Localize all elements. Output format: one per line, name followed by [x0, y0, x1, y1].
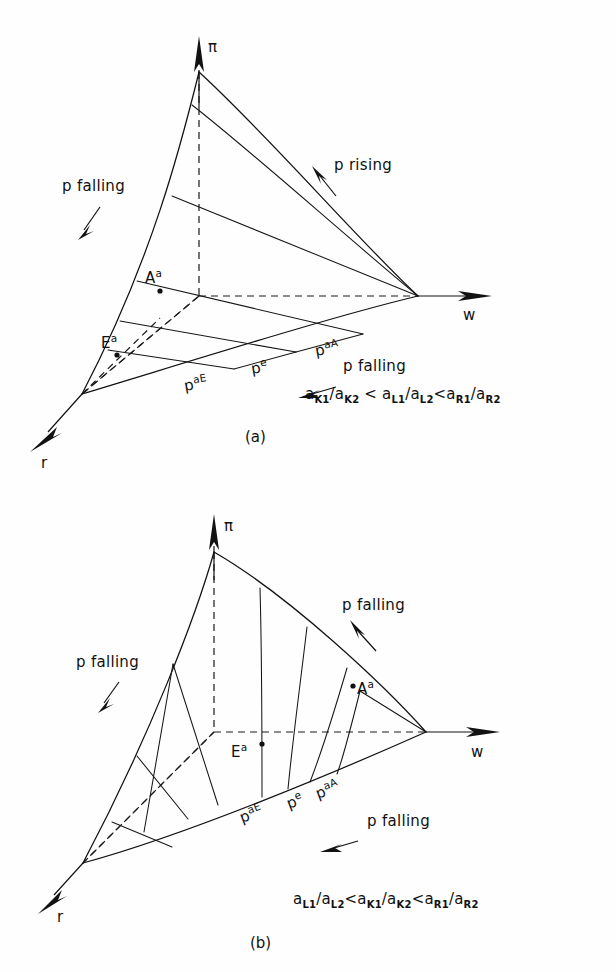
pi-axis-label-b: π — [224, 517, 233, 535]
pi-axis-label-a: π — [208, 38, 217, 56]
ruling-2-a — [137, 281, 363, 334]
label-A-a: Aa — [145, 267, 162, 287]
point-E-a — [114, 352, 119, 357]
caption-b: (b) — [250, 934, 271, 952]
label-E-a: Ea — [101, 332, 118, 352]
w-axis-b — [426, 727, 500, 737]
front-boundary-edge-a — [82, 296, 418, 394]
ruling-1-a — [172, 196, 418, 296]
annotation-p-falling-lower-a: p falling — [343, 357, 406, 375]
label-paA-a: paA — [313, 336, 341, 360]
svg-text:aL1/aL2<aK1/aK2<aR1/aR2: aL1/aL2<aK1/aK2<aR1/aR2 — [293, 890, 479, 910]
svg-text:paE: paE — [236, 800, 265, 827]
front-boundary-edge-b — [83, 732, 426, 863]
figure-page: π w r — [0, 0, 616, 972]
label-pe-a: pe — [249, 355, 269, 378]
svg-text:paA: paA — [313, 336, 341, 360]
svg-text:pe: pe — [249, 355, 269, 378]
w-axis-a — [418, 291, 492, 301]
w-axis-label-a: w — [463, 306, 475, 324]
svg-text:paE: paE — [182, 371, 209, 395]
right-boundary-curve-a — [199, 72, 418, 296]
r-axis-b — [38, 863, 83, 914]
svg-text:Aa: Aa — [145, 267, 162, 287]
caption-a: (a) — [245, 428, 266, 446]
ruling-c2-b — [260, 588, 262, 797]
panel-a-svg: π w r — [0, 0, 616, 486]
ruling-c4-b — [310, 668, 347, 782]
r-axis-label-b: r — [57, 908, 64, 926]
point-A-a — [157, 288, 162, 293]
arrow-p-falling-lower-b — [320, 841, 358, 852]
w-axis-label-b: w — [471, 743, 483, 761]
svg-text:Ea: Ea — [101, 332, 118, 352]
point-E-b — [259, 741, 264, 746]
r-axis-a — [30, 394, 82, 452]
annotation-p-falling-left-b: p falling — [76, 653, 139, 671]
panel-a: π w r — [0, 0, 616, 486]
panel-b-svg: π w r — [0, 486, 616, 972]
inequality-b: aL1/aL2<aK1/aK2<aR1/aR2 — [293, 890, 479, 910]
annotation-p-falling-right-b: p falling — [342, 596, 405, 614]
panel-b: π w r — [0, 486, 616, 972]
arrow-p-falling-right-b — [350, 620, 376, 651]
label-E-b: Ea — [231, 741, 248, 761]
annotation-p-rising-a: p rising — [334, 156, 392, 174]
annotation-p-falling-lower-b: p falling — [367, 812, 430, 830]
svg-text:Ea: Ea — [231, 741, 248, 761]
ruling-c3-b — [288, 627, 307, 789]
dashed-guides-a — [82, 72, 418, 394]
svg-text:aK1/aK2 < aL1/aL2<aR1/aR2: aK1/aK2 < aL1/aL2<aR1/aR2 — [305, 385, 501, 405]
annotation-p-falling-left-a: p falling — [62, 177, 125, 195]
arrow-p-falling-left-a — [78, 207, 100, 240]
right-boundary-curve-b — [214, 552, 426, 732]
ruling-l3-b — [112, 822, 172, 847]
label-paE-b: paE — [236, 800, 265, 827]
ruling-l1-b — [144, 664, 173, 832]
label-A-b: Aa — [357, 678, 374, 698]
dashed-rays-a — [82, 296, 199, 394]
point-A-b — [350, 683, 355, 688]
r-axis-label-a: r — [41, 454, 48, 472]
arrow-p-falling-left-b — [98, 682, 119, 713]
inequality-a: aK1/aK2 < aL1/aL2<aR1/aR2 — [305, 385, 501, 405]
label-paE-a: paE — [182, 371, 209, 395]
ruling-apex-a — [192, 105, 418, 296]
svg-text:Aa: Aa — [357, 678, 374, 698]
